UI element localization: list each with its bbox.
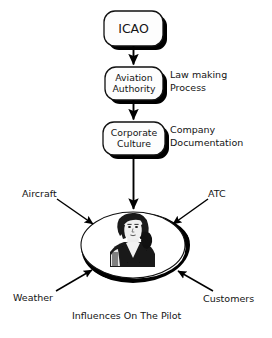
aviation-authority-box — [105, 67, 163, 100]
icao-box — [104, 11, 163, 46]
arrow-weather-to-pilot — [56, 270, 92, 291]
law-making-line-2: Process — [170, 82, 227, 95]
pilot-portrait-image — [107, 213, 157, 267]
diagram-vector-layer — [0, 0, 272, 338]
company-line-2: Documentation — [170, 137, 243, 150]
arrow-aircraft-to-pilot — [57, 199, 93, 224]
diagram-caption: Influences On The Pilot — [72, 310, 181, 321]
diagram-canvas: ICAO Aviation Authority Corporate Cultur… — [0, 0, 272, 338]
influence-label-customers: Customers — [203, 293, 254, 304]
law-making-line-1: Law making — [170, 69, 227, 82]
company-documentation-annotation: Company Documentation — [170, 124, 243, 150]
law-making-process-annotation: Law making Process — [170, 69, 227, 95]
influence-label-aircraft: Aircraft — [22, 188, 57, 199]
arrow-customers-to-pilot — [178, 271, 213, 291]
influence-label-weather: Weather — [13, 292, 53, 303]
company-line-1: Company — [170, 124, 243, 137]
influence-label-atc: ATC — [208, 188, 226, 199]
corporate-culture-box — [103, 122, 165, 155]
arrow-atc-to-pilot — [173, 199, 208, 224]
